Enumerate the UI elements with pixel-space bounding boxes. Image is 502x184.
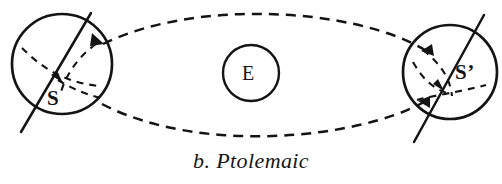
ptolemaic-figure: S E S’ b. Ptolemaic	[0, 0, 502, 184]
sun-right-label: S’	[455, 62, 475, 83]
orbit-lower-arc	[102, 102, 424, 136]
sun-right-center-arrowhead	[433, 79, 444, 91]
figure-caption: b. Ptolemaic	[0, 148, 502, 174]
orbit-upper-arc	[103, 14, 425, 50]
sun-right-circle	[403, 25, 497, 119]
deferent-orbit	[102, 14, 425, 136]
sun-left-label: S	[47, 88, 59, 109]
earth-label: E	[242, 63, 254, 83]
sun-right-equator-arc-a	[423, 50, 452, 96]
sun-right-orbit-arrowhead-lower	[418, 96, 430, 108]
sun-right-group	[403, 15, 497, 142]
sun-left-group	[12, 13, 112, 132]
sun-left-equator-arc-b	[60, 44, 96, 95]
